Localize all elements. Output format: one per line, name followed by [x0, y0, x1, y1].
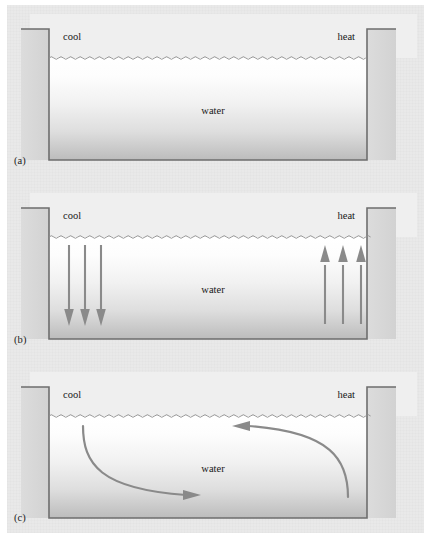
label-cool: cool — [63, 210, 81, 221]
panel-a-graphic: cool heat water — [0, 0, 431, 181]
air-band — [30, 372, 417, 416]
label-water: water — [201, 463, 225, 474]
air-band — [30, 193, 417, 237]
label-water: water — [201, 284, 225, 295]
label-heat: heat — [338, 31, 356, 42]
tank-left-wall — [21, 29, 49, 160]
panel-label-b: (b) — [14, 334, 27, 345]
label-heat: heat — [338, 210, 356, 221]
panel-label-a: (a) — [14, 155, 26, 166]
convection-figure: cool heat water (a) — [0, 0, 431, 538]
tank-left-wall — [21, 208, 49, 339]
panel-b: cool heat water (b) — [0, 181, 431, 360]
air-band — [30, 14, 417, 58]
panel-c: cool heat water (c) — [0, 360, 431, 538]
label-water: water — [201, 105, 225, 116]
panel-label-c: (c) — [14, 512, 26, 523]
label-cool: cool — [63, 389, 81, 400]
tank-right-wall — [367, 387, 396, 518]
tank-left-wall — [21, 387, 49, 518]
tank-right-wall — [367, 29, 396, 160]
panel-b-graphic: cool heat water — [0, 181, 431, 360]
label-cool: cool — [63, 31, 81, 42]
panel-c-graphic: cool heat water — [0, 360, 431, 538]
tank-right-wall — [367, 208, 396, 339]
label-heat: heat — [338, 389, 356, 400]
panel-a: cool heat water (a) — [0, 0, 431, 181]
